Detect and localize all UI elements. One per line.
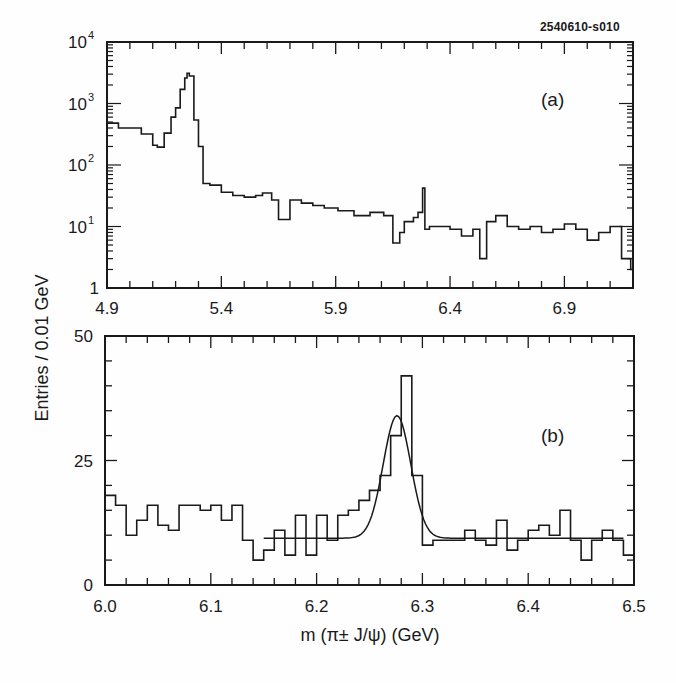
fit-curve xyxy=(264,416,624,538)
y-tick-label: 0 xyxy=(84,576,93,595)
plot-frame xyxy=(107,42,633,288)
y-tick-label: 50 xyxy=(74,327,93,346)
x-tick-label: 5.9 xyxy=(324,299,348,318)
histogram-line xyxy=(107,73,633,269)
histogram-line xyxy=(105,376,634,560)
y-tick-exponent: 1 xyxy=(88,214,94,226)
panel-b-chart: 6.06.16.26.36.46.502550 xyxy=(74,327,646,616)
plot-frame xyxy=(105,336,634,585)
x-tick-label: 5.4 xyxy=(210,299,234,318)
x-tick-label: 6.4 xyxy=(438,299,462,318)
x-tick-label: 6.5 xyxy=(622,597,646,616)
y-tick-exponent: 2 xyxy=(88,152,94,164)
x-tick-label: 6.1 xyxy=(199,597,223,616)
x-tick-label: 6.2 xyxy=(305,597,329,616)
x-tick-label: 6.3 xyxy=(411,597,435,616)
x-tick-label: 6.9 xyxy=(553,299,577,318)
y-tick-label: 25 xyxy=(74,452,93,471)
y-tick-label: 10 xyxy=(68,33,87,52)
y-tick-label: 10 xyxy=(68,218,87,237)
panel-a-chart: 4.95.45.96.46.91101102103104 xyxy=(68,29,633,318)
x-tick-label: 4.9 xyxy=(95,299,119,318)
x-tick-label: 6.0 xyxy=(93,597,117,616)
y-tick-exponent: 3 xyxy=(88,91,94,103)
y-tick-label: 10 xyxy=(68,156,87,175)
y-tick-label: 1 xyxy=(90,279,99,298)
y-tick-label: 10 xyxy=(68,95,87,114)
figure-canvas: 4.95.45.96.46.91101102103104 6.06.16.26.… xyxy=(0,0,676,683)
y-tick-exponent: 4 xyxy=(88,29,94,41)
x-tick-label: 6.4 xyxy=(516,597,540,616)
